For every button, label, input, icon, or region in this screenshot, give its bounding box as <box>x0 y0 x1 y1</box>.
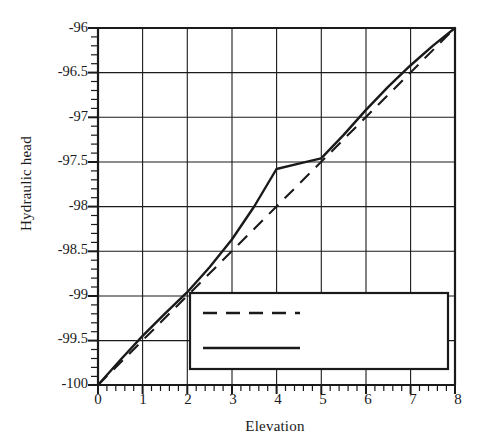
plot-area <box>0 0 479 448</box>
chart-figure: Hydraulic head Elevation -96 -96.5 -97 -… <box>0 0 479 448</box>
legend-box <box>190 293 448 369</box>
